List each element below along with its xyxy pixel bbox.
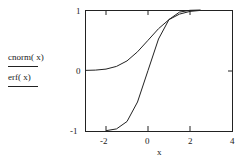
plot-area xyxy=(0,0,241,159)
cnorm-curve xyxy=(85,10,201,70)
erf-curve xyxy=(106,10,201,131)
